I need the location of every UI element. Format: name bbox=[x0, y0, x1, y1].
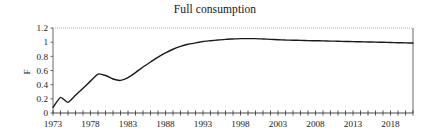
x-tick-label: 1978 bbox=[81, 119, 100, 129]
y-axis-tick-labels: 00.20.40.60.811.2 bbox=[37, 23, 49, 118]
y-tick-label: 0.2 bbox=[37, 94, 49, 104]
x-tick-label: 2003 bbox=[269, 119, 288, 129]
x-tick-label: 2008 bbox=[306, 119, 325, 129]
x-tick-label: 1973 bbox=[44, 119, 63, 129]
chart-figure: Full consumption 00.20.40.60.811.2 19731… bbox=[0, 0, 430, 140]
y-tick-label: 0.6 bbox=[37, 66, 49, 76]
y-tick-label: 1.2 bbox=[37, 23, 49, 33]
y-tick-label: 1 bbox=[43, 37, 48, 47]
x-tick-label: 1998 bbox=[231, 119, 250, 129]
x-axis-tick-labels: 1973197819831988199319982003200820132018 bbox=[44, 119, 400, 129]
x-tick-label: 1988 bbox=[156, 119, 175, 129]
y-tick-label: 0.8 bbox=[37, 52, 49, 62]
x-tick-label: 1993 bbox=[194, 119, 213, 129]
plot-frame bbox=[53, 28, 413, 113]
y-tick-label: 0.4 bbox=[37, 80, 49, 90]
x-tick-label: 1983 bbox=[119, 119, 138, 129]
x-tick-label: 2018 bbox=[381, 119, 400, 129]
x-tick-label: 2013 bbox=[344, 119, 363, 129]
line-chart-plot: 00.20.40.60.811.2 1973197819831988199319… bbox=[0, 0, 430, 140]
data-series-line bbox=[53, 39, 413, 108]
y-tick-label: 0 bbox=[43, 108, 48, 118]
y-axis-label: F bbox=[22, 69, 32, 74]
